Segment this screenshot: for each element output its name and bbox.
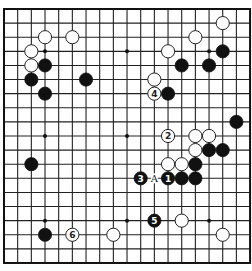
white-stone-icon <box>216 17 229 30</box>
black-stone <box>175 59 188 72</box>
go-board: 423156 A <box>0 0 252 271</box>
star-point <box>43 219 47 223</box>
black-stone <box>189 158 202 171</box>
point-marker-A: A <box>150 173 159 184</box>
star-point <box>125 134 129 138</box>
move-number: 5 <box>151 216 157 226</box>
black-stone <box>38 228 51 241</box>
black-stone-icon <box>25 73 38 86</box>
black-stone-icon <box>161 87 174 100</box>
white-stone <box>25 59 38 72</box>
white-stone <box>25 45 38 58</box>
black-stone <box>202 59 215 72</box>
black-stone-icon <box>202 144 215 157</box>
white-stone <box>189 129 202 142</box>
black-stone <box>79 73 92 86</box>
star-point <box>207 219 211 223</box>
white-stone-icon <box>107 228 120 241</box>
white-stone-icon <box>189 144 202 157</box>
marker-letter: A <box>150 173 159 184</box>
black-stone-5: 5 <box>148 214 161 227</box>
white-stone-4: 4 <box>148 87 161 100</box>
black-stone <box>38 59 51 72</box>
star-point <box>43 49 47 53</box>
black-stone <box>175 172 188 185</box>
black-stone-icon <box>202 59 215 72</box>
black-stone-icon <box>230 115 243 128</box>
black-stone-icon <box>38 59 51 72</box>
white-stone-6: 6 <box>66 228 79 241</box>
black-stone-icon <box>38 87 51 100</box>
white-stone-icon <box>175 214 188 227</box>
white-stone <box>189 31 202 44</box>
white-stone <box>175 214 188 227</box>
white-stone-icon <box>161 158 174 171</box>
white-stone <box>161 45 174 58</box>
white-stone <box>175 158 188 171</box>
white-stone <box>66 31 79 44</box>
star-point <box>43 134 47 138</box>
white-stone-icon <box>25 59 38 72</box>
move-number: 3 <box>138 174 144 184</box>
white-stone <box>216 228 229 241</box>
black-stone <box>25 158 38 171</box>
black-stone <box>216 144 229 157</box>
black-stone <box>230 115 243 128</box>
black-stone-icon <box>216 45 229 58</box>
black-stone-icon <box>175 172 188 185</box>
white-stone <box>107 228 120 241</box>
white-stone-icon <box>216 228 229 241</box>
move-number: 4 <box>151 89 157 99</box>
black-stone-icon <box>79 73 92 86</box>
white-stone-icon <box>38 31 51 44</box>
white-stone <box>38 31 51 44</box>
black-stone-1: 1 <box>161 172 174 185</box>
move-number: 6 <box>69 230 75 240</box>
white-stone-icon <box>189 129 202 142</box>
star-point <box>125 49 129 53</box>
black-stone-3: 3 <box>134 172 147 185</box>
star-point <box>207 49 211 53</box>
black-stone <box>161 87 174 100</box>
white-stone-icon <box>25 45 38 58</box>
white-stone-icon <box>189 31 202 44</box>
white-stone-icon <box>161 45 174 58</box>
black-stone <box>189 172 202 185</box>
black-stone-icon <box>216 144 229 157</box>
white-stone <box>202 129 215 142</box>
white-stone-icon <box>175 158 188 171</box>
white-stone-icon <box>202 129 215 142</box>
black-stone <box>202 144 215 157</box>
black-stone-icon <box>25 158 38 171</box>
black-stone-icon <box>189 158 202 171</box>
star-point <box>125 219 129 223</box>
move-number: 2 <box>165 131 171 141</box>
white-stone <box>216 17 229 30</box>
white-stone-icon <box>148 73 161 86</box>
black-stone-icon <box>175 59 188 72</box>
white-stone <box>161 158 174 171</box>
white-stone <box>148 73 161 86</box>
white-stone-icon <box>66 31 79 44</box>
black-stone-icon <box>189 172 202 185</box>
black-stone <box>38 87 51 100</box>
white-stone <box>189 144 202 157</box>
markers-layer: A <box>150 173 159 184</box>
black-stone <box>216 45 229 58</box>
black-stone <box>25 73 38 86</box>
white-stone-2: 2 <box>161 129 174 142</box>
move-number: 1 <box>165 174 171 184</box>
black-stone-icon <box>38 228 51 241</box>
